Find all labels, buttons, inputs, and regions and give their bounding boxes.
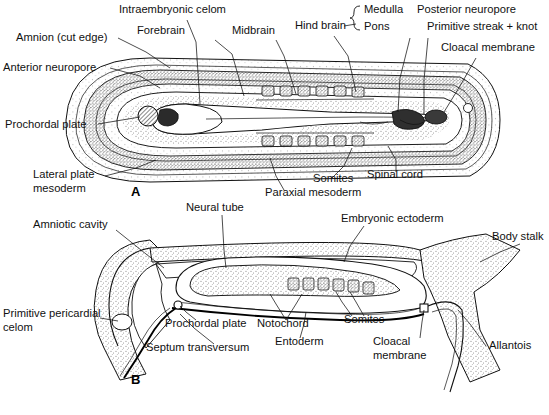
panel-b-letter: B [131, 372, 140, 387]
label-allantois: Allantois [489, 339, 532, 351]
embryology-figure: A [0, 0, 549, 415]
label-amniotic-cavity: Amniotic cavity [33, 218, 108, 230]
label-celom: celom [3, 321, 33, 333]
label-cloacal-membrane-b: Cloacal [373, 335, 410, 347]
label-hind-brain: Hind brain [295, 19, 346, 31]
label-prochordal-plate-a: Prochordal plate [5, 118, 86, 130]
label-somites-a: Somites [313, 172, 354, 184]
label-amnion-cut-edge: Amnion (cut edge) [16, 31, 108, 43]
label-forebrain: Forebrain [137, 24, 185, 36]
figure-canvas: A [0, 0, 549, 415]
label-cloacal-membrane-b2: membrane [373, 349, 426, 361]
label-prochordal-plate-b: Prochordal plate [165, 317, 246, 329]
label-posterior-neuropore: Posterior neuropore [417, 3, 516, 15]
pericardial-celom-region [112, 314, 132, 330]
label-mesoderm: mesoderm [33, 182, 86, 194]
label-lateral-plate: Lateral plate [33, 168, 95, 180]
label-embryonic-ectoderm: Embryonic ectoderm [341, 212, 444, 224]
label-somites-b: Somites [344, 313, 385, 325]
label-paraxial-mesoderm: Paraxial mesoderm [265, 186, 361, 198]
label-body-stalk: Body stalk [492, 230, 544, 242]
panel-a-letter: A [131, 184, 141, 199]
label-primitive-pericardial: Primitive pericardial [3, 307, 101, 319]
label-spinal-cord: Spinal cord [367, 168, 423, 180]
label-neural-tube: Neural tube [186, 201, 244, 213]
label-notochord: Notochord [257, 317, 309, 329]
label-medulla: Medulla [364, 3, 404, 15]
label-cloacal-membrane-a: Cloacal membrane [441, 41, 535, 53]
label-intraembryonic-celom: Intraembryonic celom [119, 3, 226, 15]
label-primitive-streak-knot: Primitive streak + knot [427, 20, 538, 32]
label-entoderm: Entoderm [275, 335, 324, 347]
label-midbrain: Midbrain [232, 24, 275, 36]
label-anterior-neuropore: Anterior neuropore [3, 61, 96, 73]
label-pons: Pons [364, 20, 390, 32]
label-septum-transversum: Septum transversum [146, 341, 249, 353]
